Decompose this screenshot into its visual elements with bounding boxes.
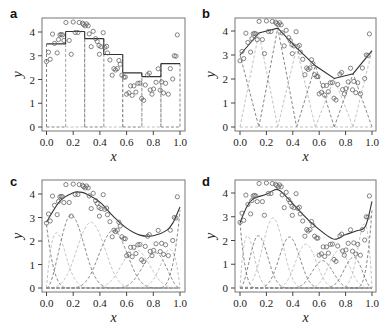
y-tick-label: 1 bbox=[223, 97, 229, 109]
panel-d: d012340.00.20.40.60.81.0xy bbox=[202, 174, 379, 325]
data-point bbox=[130, 93, 134, 97]
data-point bbox=[108, 58, 112, 62]
data-point bbox=[134, 251, 138, 255]
x-tick-label: 1.0 bbox=[365, 297, 379, 309]
data-point bbox=[56, 38, 60, 42]
data-point bbox=[143, 244, 147, 248]
data-point bbox=[164, 243, 168, 247]
y-axis-label: y bbox=[203, 232, 218, 241]
data-point bbox=[168, 228, 172, 232]
data-point bbox=[175, 195, 179, 199]
data-point bbox=[264, 181, 268, 185]
data-point bbox=[62, 200, 66, 204]
y-tick-label: 3 bbox=[30, 212, 36, 224]
data-point bbox=[67, 200, 71, 204]
data-point bbox=[171, 77, 175, 81]
cubic-basis bbox=[47, 215, 181, 288]
y-tick-label: 4 bbox=[223, 25, 229, 37]
data-point bbox=[50, 32, 54, 36]
data-point bbox=[156, 228, 160, 232]
data-point bbox=[67, 38, 71, 42]
data-point bbox=[260, 38, 264, 42]
data-point bbox=[262, 213, 266, 217]
panel-label: d bbox=[202, 174, 210, 189]
panel-c: c012340.00.20.40.60.81.0xy bbox=[10, 174, 187, 325]
y-tick-label: 0 bbox=[30, 282, 36, 294]
y-tick-label: 1 bbox=[30, 97, 36, 109]
y-tick-label: 4 bbox=[30, 26, 36, 38]
data-point bbox=[87, 32, 91, 36]
data-point bbox=[97, 52, 101, 56]
y-tick-label: 0 bbox=[30, 121, 36, 133]
data-point bbox=[160, 80, 164, 84]
box-basis bbox=[47, 44, 66, 127]
data-point bbox=[358, 253, 362, 257]
data-point bbox=[294, 30, 298, 34]
x-tick-label: 0.6 bbox=[120, 297, 134, 309]
data-point bbox=[346, 241, 350, 245]
triangle-basis bbox=[240, 33, 278, 127]
data-point bbox=[118, 62, 122, 66]
data-point bbox=[166, 254, 170, 258]
x-tick-label: 0.6 bbox=[312, 136, 326, 148]
data-point bbox=[246, 40, 250, 44]
x-tick-label: 0.0 bbox=[40, 297, 54, 309]
x-tick-label: 0.8 bbox=[146, 136, 160, 148]
data-point bbox=[101, 193, 105, 197]
x-tick-label: 0.6 bbox=[120, 136, 134, 148]
data-point bbox=[69, 52, 73, 56]
basis-functions bbox=[47, 32, 181, 127]
data-point bbox=[356, 242, 360, 246]
data-point bbox=[134, 90, 138, 94]
data-point bbox=[284, 28, 288, 32]
data-point bbox=[244, 31, 248, 35]
data-point bbox=[249, 212, 253, 216]
x-tick-label: 0.0 bbox=[233, 297, 247, 309]
data-point bbox=[255, 200, 259, 204]
data-point bbox=[336, 244, 340, 248]
data-point bbox=[110, 73, 114, 77]
data-point bbox=[257, 181, 261, 185]
x-tick-label: 0.2 bbox=[66, 136, 80, 148]
x-axis-label: x bbox=[301, 149, 309, 164]
data-point bbox=[97, 214, 101, 218]
y-tick-label: 0 bbox=[223, 121, 229, 133]
data-point bbox=[323, 254, 327, 258]
data-point bbox=[303, 234, 307, 238]
data-point bbox=[294, 192, 298, 196]
x-axis-label: x bbox=[109, 310, 117, 325]
data-point bbox=[108, 220, 112, 224]
x-tick-label: 1.0 bbox=[173, 136, 187, 148]
data-point bbox=[150, 92, 154, 96]
data-point bbox=[55, 213, 59, 217]
data-point bbox=[367, 32, 371, 36]
data-point bbox=[55, 51, 59, 55]
data-point bbox=[363, 76, 367, 80]
data-point bbox=[363, 238, 367, 242]
data-point bbox=[154, 80, 158, 84]
y-tick-label: 0 bbox=[223, 282, 229, 294]
data-point bbox=[290, 52, 294, 56]
data-point bbox=[257, 19, 261, 23]
cubic-basis bbox=[240, 224, 372, 288]
data-point bbox=[89, 207, 93, 211]
y-tick-label: 3 bbox=[223, 49, 229, 61]
data-point bbox=[118, 224, 122, 228]
data-point bbox=[48, 219, 52, 223]
x-axis-label: x bbox=[109, 149, 117, 164]
x-tick-label: 0.6 bbox=[312, 297, 326, 309]
data-point bbox=[367, 194, 371, 198]
panel-label: b bbox=[202, 6, 210, 21]
data-point bbox=[105, 213, 109, 217]
y-tick-label: 4 bbox=[223, 187, 229, 199]
data-point bbox=[101, 31, 105, 35]
x-tick-label: 0.4 bbox=[286, 297, 300, 309]
data-point bbox=[64, 20, 68, 24]
data-points bbox=[44, 182, 179, 264]
data-point bbox=[348, 228, 352, 232]
x-tick-label: 0.4 bbox=[93, 136, 107, 148]
data-point bbox=[175, 33, 179, 37]
data-point bbox=[284, 190, 288, 194]
data-point bbox=[168, 67, 172, 71]
data-point bbox=[354, 91, 358, 95]
